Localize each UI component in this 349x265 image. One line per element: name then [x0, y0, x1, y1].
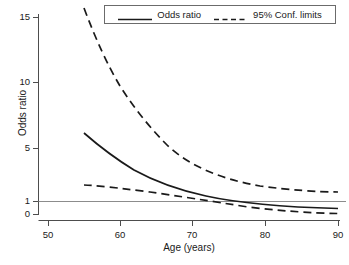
x-tick-label-70: 70 — [187, 230, 198, 240]
legend-label-conf-limits: 95% Conf. limits — [253, 10, 322, 20]
x-tick-label-50: 50 — [43, 230, 54, 240]
odds-ratio-by-age-chart: 15 10 5 1 0 50 60 70 80 90 Odds ratio Ag… — [0, 0, 349, 265]
legend-solid-line-icon — [118, 10, 152, 19]
y-tick-label-1: 1 — [10, 196, 30, 206]
upper-confidence-limit-curve — [84, 8, 338, 192]
chart-legend: Odds ratio 95% Conf. limits — [104, 5, 336, 24]
y-tick-label-15: 15 — [10, 12, 30, 22]
plot-area — [0, 0, 349, 265]
legend-label-odds-ratio: Odds ratio — [157, 10, 201, 20]
x-tick-label-60: 60 — [115, 230, 126, 240]
y-tick-label-0: 0 — [10, 209, 30, 219]
y-axis-ticks — [33, 18, 39, 215]
lower-confidence-limit-curve — [84, 185, 338, 214]
legend-entry-conf-limits: 95% Conf. limits — [214, 10, 322, 20]
odds-ratio-curve — [84, 133, 338, 209]
y-axis-title: Odds ratio — [18, 73, 28, 153]
x-tick-label-80: 80 — [260, 230, 271, 240]
x-tick-label-90: 90 — [333, 230, 344, 240]
x-axis-ticks — [49, 221, 339, 227]
legend-dashed-line-icon — [214, 10, 248, 19]
legend-entry-odds-ratio: Odds ratio — [118, 10, 201, 20]
x-axis-title: Age (years) — [38, 243, 340, 253]
